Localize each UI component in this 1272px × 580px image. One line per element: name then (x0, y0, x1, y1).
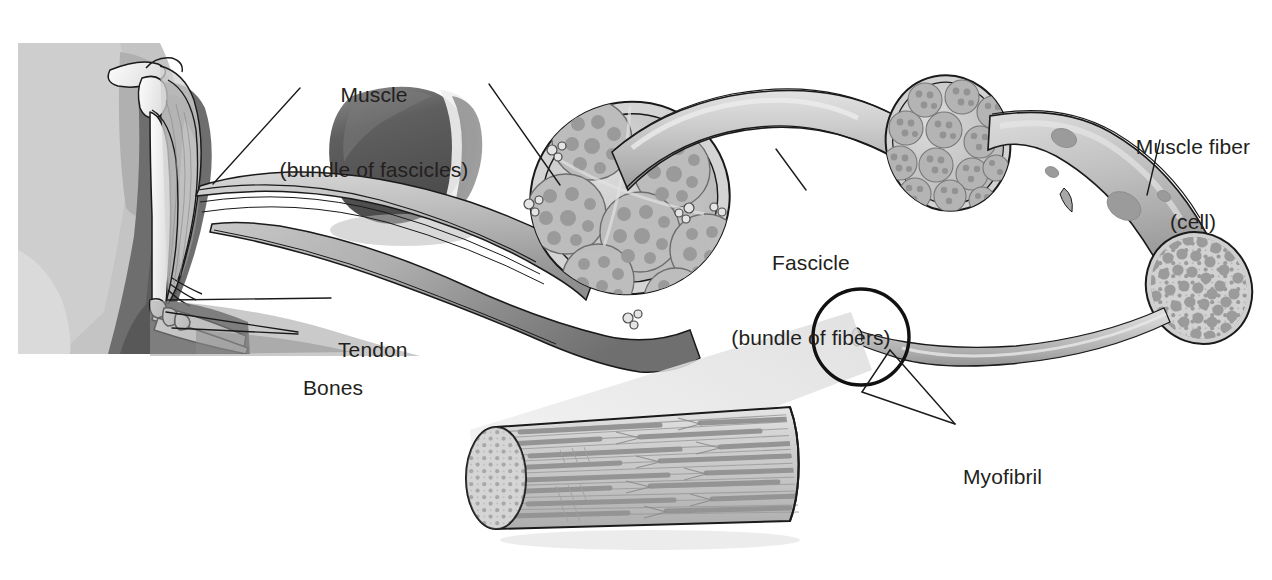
leader-fascicle (776, 149, 806, 190)
label-myofibril-text: Myofibril (963, 464, 1042, 489)
label-fascicle-line2: (bundle of fibers) (718, 325, 904, 350)
label-bones-text: Bones (303, 375, 363, 400)
label-muscle-line2: (bundle of fascicles) (268, 157, 480, 182)
label-fascicle: Fascicle (bundle of fibers) (718, 200, 904, 375)
label-bones: Bones (303, 325, 363, 425)
label-muscle-fiber: Muscle fiber (cell) (1118, 84, 1268, 259)
label-fascicle-line1: Fascicle (718, 250, 904, 275)
label-muscle-line1: Muscle (268, 82, 480, 107)
myofibril-cylinder (466, 407, 800, 550)
leader-muscle-right (489, 84, 560, 185)
label-myofibril: Myofibril (963, 414, 1042, 514)
label-muscle-fiber-line1: Muscle fiber (1118, 134, 1268, 159)
figure-canvas: Muscle (bundle of fascicles) Muscle fibe… (0, 0, 1272, 580)
label-muscle: Muscle (bundle of fascicles) (268, 32, 480, 207)
anatomy-illustration (0, 0, 1272, 580)
label-muscle-fiber-line2: (cell) (1118, 209, 1268, 234)
